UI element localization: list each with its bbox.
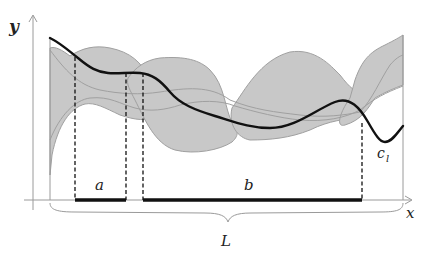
x-axis-label: x xyxy=(406,204,415,222)
band-right xyxy=(340,35,403,125)
uncertainty-bands xyxy=(50,35,403,175)
segment-b-label: b xyxy=(244,176,254,194)
y-axis-label: y xyxy=(8,16,20,36)
brace-label-L: L xyxy=(220,232,231,250)
curve-label-subscript: l xyxy=(386,153,389,164)
segment-a-label: a xyxy=(95,176,104,194)
brace-L xyxy=(50,203,403,222)
curve-label-c: c xyxy=(377,145,385,161)
diagram-canvas: y x a b L c l xyxy=(0,0,439,257)
